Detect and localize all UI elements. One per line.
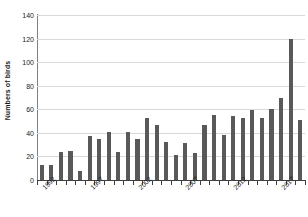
- bar-2000: [116, 152, 120, 180]
- bar-2015: [260, 118, 264, 180]
- bar-2016: [269, 109, 273, 180]
- x-tick-17: [200, 181, 201, 185]
- x-tick-28: [305, 181, 306, 185]
- y-axis-title: Numbers of birds: [0, 0, 16, 180]
- bar-2005: [164, 142, 168, 180]
- x-axis-tick-labels: 199219972002200720122017: [37, 186, 305, 217]
- bar-2017: [279, 98, 283, 181]
- y-tick-label-40: 40: [26, 129, 34, 136]
- bar-2006: [174, 155, 178, 180]
- y-tick-label-20: 20: [26, 153, 34, 160]
- x-tick-7: [104, 181, 105, 185]
- bar-1992: [40, 165, 44, 180]
- x-tick-25: [276, 181, 277, 185]
- x-tick-22: [248, 181, 249, 185]
- x-tick-23: [257, 181, 258, 185]
- x-tick-13: [161, 181, 162, 185]
- bar-1995: [68, 151, 72, 180]
- bird-count-bar-chart: Numbers of birds 020406080100120140 1992…: [0, 0, 308, 217]
- y-tick-label-60: 60: [26, 106, 34, 113]
- x-tick-14: [171, 181, 172, 185]
- x-tick-27: [295, 181, 296, 185]
- x-tick-9: [123, 181, 124, 185]
- bar-2010: [212, 115, 216, 180]
- y-tick-label-100: 100: [22, 59, 34, 66]
- x-tick-2: [56, 181, 57, 185]
- x-tick-18: [209, 181, 210, 185]
- x-tick-24: [267, 181, 268, 185]
- bar-2007: [183, 143, 187, 180]
- x-tick-19: [219, 181, 220, 185]
- y-tick-label-80: 80: [26, 82, 34, 89]
- bar-1996: [78, 171, 82, 180]
- y-tick-label-0: 0: [30, 177, 34, 184]
- x-tick-20: [228, 181, 229, 185]
- bar-2014: [250, 110, 254, 180]
- plot-area: [37, 15, 305, 180]
- y-tick-label-120: 120: [22, 35, 34, 42]
- bar-2013: [241, 118, 245, 180]
- bar-2009: [202, 125, 206, 180]
- bar-1999: [107, 132, 111, 180]
- x-tick-0: [37, 181, 38, 185]
- bar-2002: [135, 139, 139, 180]
- bar-1997: [88, 136, 92, 180]
- x-tick-5: [85, 181, 86, 185]
- y-axis-title-label: Numbers of birds: [5, 60, 12, 120]
- bar-1994: [59, 152, 63, 180]
- bar-2001: [126, 132, 130, 180]
- y-tick-label-140: 140: [22, 12, 34, 19]
- bars-series: [37, 15, 305, 180]
- x-tick-3: [66, 181, 67, 185]
- y-axis-tick-labels: 020406080100120140: [16, 0, 36, 185]
- bar-2011: [222, 135, 226, 180]
- x-tick-10: [133, 181, 134, 185]
- bar-2004: [155, 125, 159, 180]
- x-tick-8: [114, 181, 115, 185]
- bar-2019: [298, 120, 302, 180]
- bar-2003: [145, 118, 149, 180]
- bar-2018: [289, 39, 293, 180]
- x-tick-12: [152, 181, 153, 185]
- x-tick-4: [75, 181, 76, 185]
- bar-2012: [231, 116, 235, 180]
- x-tick-15: [181, 181, 182, 185]
